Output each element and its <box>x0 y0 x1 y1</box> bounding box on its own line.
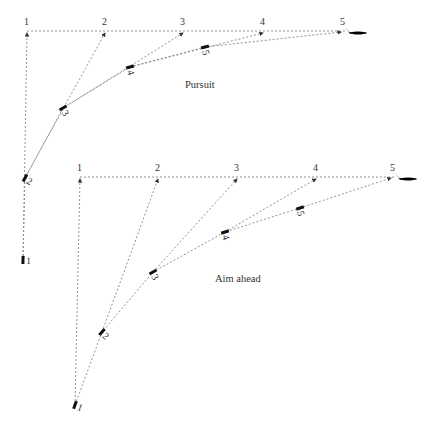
pursuer-point-label: 1 <box>26 255 31 266</box>
aircraft-icon <box>345 27 367 35</box>
figure-caption <box>0 423 442 430</box>
sight-line <box>23 33 27 260</box>
pursuit-diagram: 1234512345Pursuit <box>21 16 367 266</box>
missile-icon: 1 <box>72 400 85 414</box>
target-point-label: 2 <box>102 16 107 27</box>
pursuer-point-label: 5 <box>295 209 307 217</box>
missile-icon: 3 <box>147 268 161 282</box>
target-point-label: 1 <box>24 16 29 27</box>
missile-icon: 4 <box>219 229 232 241</box>
pursuer-point-label: 4 <box>220 233 232 241</box>
sight-line <box>225 179 316 232</box>
missile-icon: 5 <box>294 205 307 217</box>
target-point-label: 3 <box>234 162 239 173</box>
missile-icon: 3 <box>57 104 71 118</box>
pursuit-diagram-canvas: 1234512345Pursuit 1234512345Aim ahead <box>0 0 442 430</box>
target-point-label: 5 <box>340 16 345 27</box>
aircraft-icon <box>395 173 417 181</box>
pursuer-point-label: 5 <box>200 49 212 57</box>
target-point-label: 4 <box>313 162 318 173</box>
target-point-label: 5 <box>390 162 395 173</box>
diagram-title: Aim ahead <box>215 273 262 284</box>
sight-line <box>205 32 341 47</box>
pursuer-point-label: 4 <box>125 69 137 77</box>
sight-line <box>75 179 80 405</box>
sight-line <box>63 33 183 108</box>
target-point-label: 4 <box>260 16 265 27</box>
sight-line <box>300 178 391 208</box>
target-point-label: 2 <box>155 162 160 173</box>
missile-icon: 1 <box>21 255 31 266</box>
sight-line <box>102 179 158 332</box>
diagram-title: Pursuit <box>185 79 215 90</box>
pursuer-path <box>75 208 300 405</box>
aim-ahead-diagram: 1234512345Aim ahead <box>72 162 417 413</box>
missile-icon: 2 <box>21 173 35 187</box>
sight-line <box>153 179 237 272</box>
target-point-label: 1 <box>77 162 82 173</box>
target-point-label: 3 <box>180 16 185 27</box>
pursuer-path <box>23 47 205 260</box>
